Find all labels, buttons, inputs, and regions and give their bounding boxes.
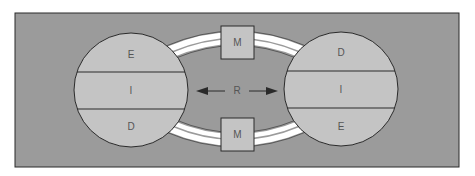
- left-circle-bottom-label: D: [127, 121, 134, 132]
- top-m-box: M: [221, 26, 254, 59]
- bottom-m-box-label: M: [233, 129, 241, 140]
- right-circle-top-label: D: [337, 47, 344, 58]
- center-label: R: [233, 85, 240, 96]
- left-circle-top-label: E: [128, 49, 135, 60]
- left-circle-middle-label: I: [130, 85, 133, 96]
- diagram-canvas: E I D D I E M M R: [0, 0, 475, 176]
- bottom-m-box: M: [221, 118, 254, 151]
- top-m-box-label: M: [233, 37, 241, 48]
- right-circle-middle-label: I: [340, 84, 343, 95]
- right-circle-bottom-label: E: [338, 121, 345, 132]
